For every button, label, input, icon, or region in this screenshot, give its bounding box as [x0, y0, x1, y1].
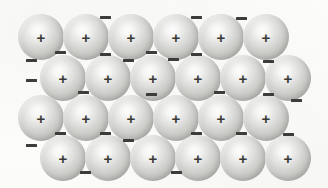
minus-charge-icon — [191, 132, 202, 135]
plus-charge-icon: + — [59, 151, 68, 166]
plus-charge-icon: + — [239, 71, 248, 86]
plus-charge-icon: + — [149, 151, 158, 166]
positive-ion-sphere: + — [108, 95, 154, 141]
plus-charge-icon: + — [262, 30, 271, 45]
positive-ion-sphere: + — [40, 135, 86, 181]
minus-charge-icon — [146, 93, 157, 96]
minus-charge-icon — [55, 51, 66, 54]
positive-ion-sphere: + — [175, 135, 221, 181]
plus-charge-icon: + — [284, 71, 293, 86]
minus-charge-icon — [236, 17, 247, 20]
minus-charge-icon — [100, 53, 111, 56]
minus-charge-icon — [171, 171, 182, 174]
positive-ion-sphere: + — [130, 135, 176, 181]
minus-charge-icon — [100, 16, 111, 19]
plus-charge-icon: + — [37, 30, 46, 45]
minus-charge-icon — [168, 58, 179, 61]
plus-charge-icon: + — [262, 111, 271, 126]
positive-ion-sphere: + — [265, 135, 311, 181]
minus-charge-icon — [191, 53, 202, 56]
minus-charge-icon — [191, 16, 202, 19]
positive-ion-sphere: + — [175, 55, 221, 101]
minus-charge-icon — [55, 132, 66, 135]
minus-charge-icon — [80, 171, 91, 174]
plus-charge-icon: + — [194, 71, 203, 86]
plus-charge-icon: + — [82, 111, 91, 126]
plus-charge-icon: + — [127, 30, 136, 45]
minus-charge-icon — [100, 132, 111, 135]
minus-charge-icon — [146, 51, 157, 54]
minus-charge-icon — [26, 59, 37, 62]
minus-charge-icon — [78, 91, 89, 94]
plus-charge-icon: + — [284, 151, 293, 166]
plus-charge-icon: + — [127, 111, 136, 126]
positive-ion-sphere: + — [40, 55, 86, 101]
minus-charge-icon — [26, 79, 37, 82]
minus-charge-icon — [26, 144, 37, 147]
plus-charge-icon: + — [149, 71, 158, 86]
positive-ion-sphere: + — [85, 135, 131, 181]
minus-charge-icon — [236, 132, 247, 135]
minus-charge-icon — [283, 133, 294, 136]
positive-ion-sphere: + — [243, 14, 289, 60]
plus-charge-icon: + — [82, 30, 91, 45]
minus-charge-icon — [123, 139, 134, 142]
minus-charge-icon — [263, 60, 274, 63]
minus-charge-icon — [214, 91, 225, 94]
plus-charge-icon: + — [104, 71, 113, 86]
plus-charge-icon: + — [172, 30, 181, 45]
metallic-bonding-diagram: ++++++++++++++++++++++++ — [0, 0, 328, 188]
plus-charge-icon: + — [217, 30, 226, 45]
plus-charge-icon: + — [104, 151, 113, 166]
positive-ion-sphere: + — [220, 55, 266, 101]
positive-ion-sphere: + — [85, 55, 131, 101]
plus-charge-icon: + — [172, 111, 181, 126]
plus-charge-icon: + — [239, 151, 248, 166]
minus-charge-icon — [263, 93, 274, 96]
plus-charge-icon: + — [217, 111, 226, 126]
plus-charge-icon: + — [59, 71, 68, 86]
plus-charge-icon: + — [194, 151, 203, 166]
positive-ion-sphere: + — [198, 14, 244, 60]
plus-charge-icon: + — [37, 111, 46, 126]
minus-charge-icon — [291, 99, 302, 102]
minus-charge-icon — [123, 59, 134, 62]
positive-ion-sphere: + — [220, 135, 266, 181]
